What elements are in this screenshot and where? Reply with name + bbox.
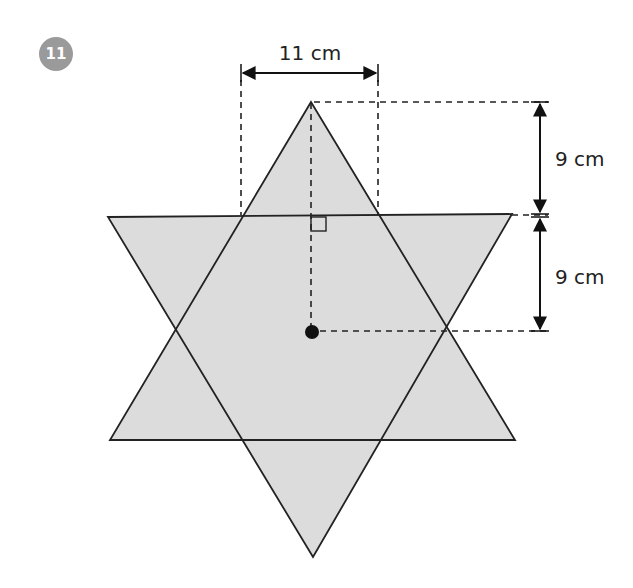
width-label: 11 cm [279,41,341,65]
upper-height-label: 9 cm [555,147,605,171]
lower-height-label: 9 cm [555,265,605,289]
problem-number-badge: 11 [39,37,73,71]
hexagram-diagram: 11 11 cm 9 cm 9 cm [0,0,633,588]
lower-height-dimension: 9 cm [531,217,605,331]
problem-number: 11 [46,45,67,63]
upper-height-dimension: 9 cm [531,102,605,214]
center-point [305,325,319,339]
width-dimension: 11 cm [241,41,378,82]
